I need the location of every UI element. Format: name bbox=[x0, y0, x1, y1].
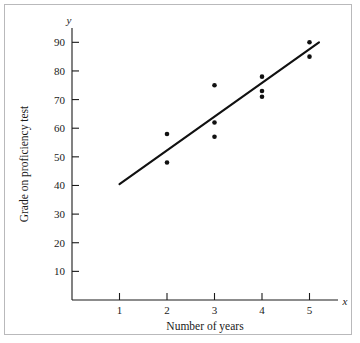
x-tick-label: 5 bbox=[307, 304, 313, 316]
y-axis-title: Grade on proficiency test bbox=[18, 105, 31, 222]
y-ticks-group: 102030405060708090 bbox=[54, 36, 79, 277]
y-tick-label: 60 bbox=[54, 122, 66, 134]
y-tick-label: 30 bbox=[54, 208, 66, 220]
x-axis-title: Number of years bbox=[166, 320, 244, 333]
data-points-group bbox=[165, 40, 312, 165]
data-point bbox=[212, 135, 217, 140]
y-tick-label: 10 bbox=[54, 265, 66, 277]
x-tick-label: 3 bbox=[212, 304, 218, 316]
x-tick-label: 4 bbox=[259, 304, 265, 316]
data-point bbox=[260, 89, 265, 94]
x-ticks-group: 12345 bbox=[117, 293, 313, 316]
y-tick-label: 40 bbox=[54, 179, 66, 191]
data-point bbox=[212, 83, 217, 88]
data-point bbox=[165, 160, 170, 165]
scatter-plot: 102030405060708090 12345 y x Number of y… bbox=[0, 0, 360, 343]
x-tick-label: 1 bbox=[117, 304, 123, 316]
y-tick-label: 20 bbox=[54, 237, 66, 249]
y-tick-label: 90 bbox=[54, 36, 66, 48]
axes-group bbox=[72, 28, 338, 300]
y-tick-label: 50 bbox=[54, 151, 66, 163]
y-tick-label: 70 bbox=[54, 94, 66, 106]
data-point bbox=[260, 74, 265, 79]
y-axis-variable-label: y bbox=[66, 14, 72, 26]
data-point bbox=[260, 94, 265, 99]
figure-container: 102030405060708090 12345 y x Number of y… bbox=[0, 0, 360, 343]
data-point bbox=[212, 120, 217, 125]
data-point bbox=[307, 54, 312, 59]
x-axis-variable-label: x bbox=[342, 295, 348, 307]
y-tick-label: 80 bbox=[54, 65, 66, 77]
data-point bbox=[165, 132, 170, 137]
data-point bbox=[307, 40, 312, 45]
regression-line bbox=[120, 42, 320, 184]
x-tick-label: 2 bbox=[164, 304, 170, 316]
